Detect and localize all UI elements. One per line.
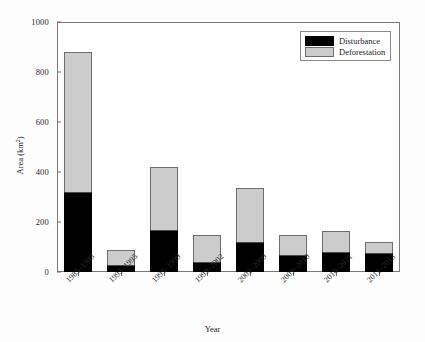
y-axis: 02004006008001000	[0, 0, 57, 342]
bar-group[interactable]	[64, 52, 92, 272]
chart-figure: 02004006008001000 Area (km2) Year Distur…	[0, 0, 425, 342]
y-axis-title-base: Area (km	[15, 142, 25, 174]
bar-segment-deforestation[interactable]	[236, 188, 264, 242]
y-axis-tick-label: 400	[36, 167, 49, 177]
y-axis-tick-label: 1000	[31, 17, 49, 27]
legend-swatch-disturbance	[305, 36, 334, 46]
y-axis-title-close: )	[15, 136, 25, 139]
legend-item-disturbance: Disturbance	[305, 35, 385, 46]
y-axis-tick-label: 600	[36, 117, 49, 127]
bar-segment-deforestation[interactable]	[322, 231, 350, 252]
legend-label-deforestation: Deforestation	[339, 47, 385, 57]
legend-item-deforestation: Deforestation	[305, 46, 385, 57]
bar-segment-deforestation[interactable]	[150, 167, 178, 230]
legend-swatch-deforestation	[305, 47, 334, 57]
y-axis-tick-label: 0	[45, 267, 49, 277]
y-axis-title-exponent: 2	[15, 139, 21, 142]
y-axis-tick-mark	[57, 122, 61, 123]
x-axis-title: Year	[0, 324, 425, 334]
bar-segment-deforestation[interactable]	[64, 52, 92, 192]
y-axis-title: Area (km2)	[15, 95, 26, 215]
bar-segment-deforestation[interactable]	[279, 235, 307, 255]
y-axis-tick-mark	[57, 172, 61, 173]
y-axis-tick-label: 800	[36, 67, 49, 77]
legend-label-disturbance: Disturbance	[339, 36, 380, 46]
y-axis-tick-mark	[57, 272, 61, 273]
y-axis-tick-mark	[57, 72, 61, 73]
bar-segment-deforestation[interactable]	[365, 242, 393, 253]
y-axis-tick-mark	[57, 22, 61, 23]
y-axis-tick-label: 200	[36, 217, 49, 227]
chart-legend: Disturbance Deforestation	[300, 31, 391, 61]
y-axis-tick-mark	[57, 222, 61, 223]
